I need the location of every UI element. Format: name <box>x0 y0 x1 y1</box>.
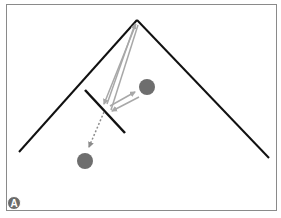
lower-circle <box>77 153 93 169</box>
arrow-peak-down <box>104 24 136 104</box>
panel-label-badge: A <box>7 196 21 210</box>
roof-right-line <box>137 20 269 158</box>
diagram-canvas <box>0 0 281 218</box>
arrow-from-upper-circle <box>112 97 139 111</box>
dotted-arrow <box>89 112 104 147</box>
upper-circle <box>139 79 155 95</box>
barrier-line <box>85 90 125 133</box>
